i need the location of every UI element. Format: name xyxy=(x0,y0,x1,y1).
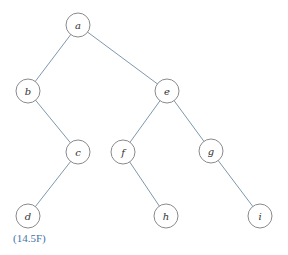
node-label-c: c xyxy=(75,147,81,158)
node-f: f xyxy=(111,140,135,164)
node-label-b: b xyxy=(25,86,31,97)
node-h: h xyxy=(154,204,178,228)
node-label-g: g xyxy=(208,146,214,157)
node-g: g xyxy=(199,139,223,163)
node-label-i: i xyxy=(258,211,261,222)
node-b: b xyxy=(16,79,40,103)
node-c: c xyxy=(66,140,90,164)
figure-caption: (14.5F) xyxy=(13,232,46,244)
node-label-e: e xyxy=(164,86,170,97)
node-a: a xyxy=(66,13,90,37)
node-label-h: h xyxy=(163,211,169,222)
node-e: e xyxy=(155,79,179,103)
node-d: d xyxy=(16,204,40,228)
tree-diagram: a b e c f g d h i xyxy=(0,0,288,255)
edge-a-e xyxy=(78,25,167,91)
node-label-d: d xyxy=(25,211,31,222)
node-label-a: a xyxy=(75,20,81,31)
edges xyxy=(28,25,260,216)
node-i: i xyxy=(248,204,272,228)
